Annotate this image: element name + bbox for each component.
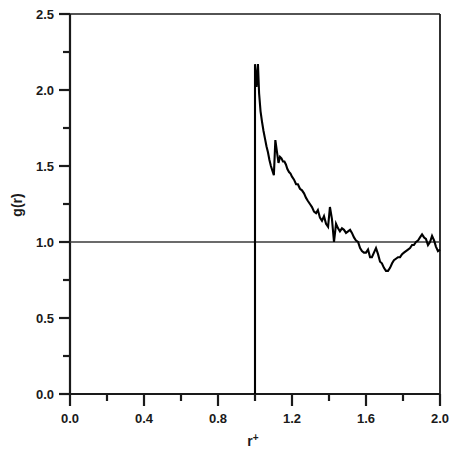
x-axis-title-superscript: +	[253, 432, 259, 443]
y-axis-ticks	[59, 14, 70, 394]
chart-figure: 2.5 2.0 1.5 1.0 0.5 0.0 0.0 0.4 0.8 1.2 …	[0, 0, 460, 455]
x-tick-label-1_2: 1.2	[283, 411, 301, 426]
x-tick-label-2_0: 2.0	[431, 411, 449, 426]
x-axis-title: r+	[247, 432, 258, 449]
x-axis-ticks	[70, 394, 440, 406]
y-axis-title: g(r)	[9, 193, 25, 216]
y-tick-label-0_0: 0.0	[36, 387, 54, 402]
x-tick-label-0_8: 0.8	[209, 411, 227, 426]
x-tick-label-0_0: 0.0	[61, 411, 79, 426]
y-tick-labels: 2.5 2.0 1.5 1.0 0.5 0.0	[36, 7, 54, 402]
y-tick-label-2_0: 2.0	[36, 83, 54, 98]
x-tick-label-1_6: 1.6	[357, 411, 375, 426]
plot-svg: 2.5 2.0 1.5 1.0 0.5 0.0 0.0 0.4 0.8 1.2 …	[0, 0, 460, 455]
x-tick-labels: 0.0 0.4 0.8 1.2 1.6 2.0	[61, 411, 449, 426]
data-curve-gr	[255, 64, 440, 394]
x-tick-label-0_4: 0.4	[135, 411, 154, 426]
y-tick-label-0_5: 0.5	[36, 311, 54, 326]
y-tick-label-1_0: 1.0	[36, 235, 54, 250]
y-tick-label-2_5: 2.5	[36, 7, 54, 22]
y-tick-label-1_5: 1.5	[36, 159, 54, 174]
